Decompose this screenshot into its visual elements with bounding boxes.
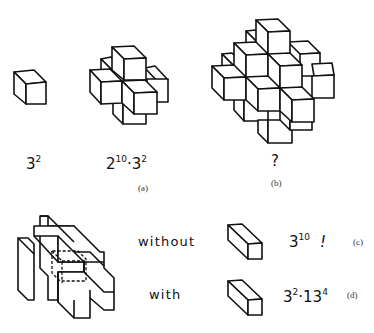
small-cube-without-icon [228, 224, 262, 259]
large-cluster-icon [212, 19, 334, 143]
caption-a: (a) [138, 183, 148, 193]
seven-cube-cluster-icon [90, 46, 168, 124]
label-large-cluster: ? [271, 152, 279, 170]
result-with: 32·134 [283, 288, 328, 306]
caption-b: (b) [271, 178, 282, 188]
caption-d: (d) [347, 290, 358, 300]
single-cube-icon [14, 70, 46, 104]
label-with: with [149, 287, 181, 302]
label-single-cube: 32 [26, 155, 41, 173]
figure-drawings [0, 0, 374, 333]
result-without: 310! [289, 233, 326, 251]
label-seven-cube-cluster: 210·32 [106, 155, 147, 173]
cross-solid-icon [18, 216, 114, 318]
small-cube-with-icon [228, 280, 262, 315]
label-without: without [138, 234, 195, 249]
caption-c: (c) [353, 237, 363, 247]
